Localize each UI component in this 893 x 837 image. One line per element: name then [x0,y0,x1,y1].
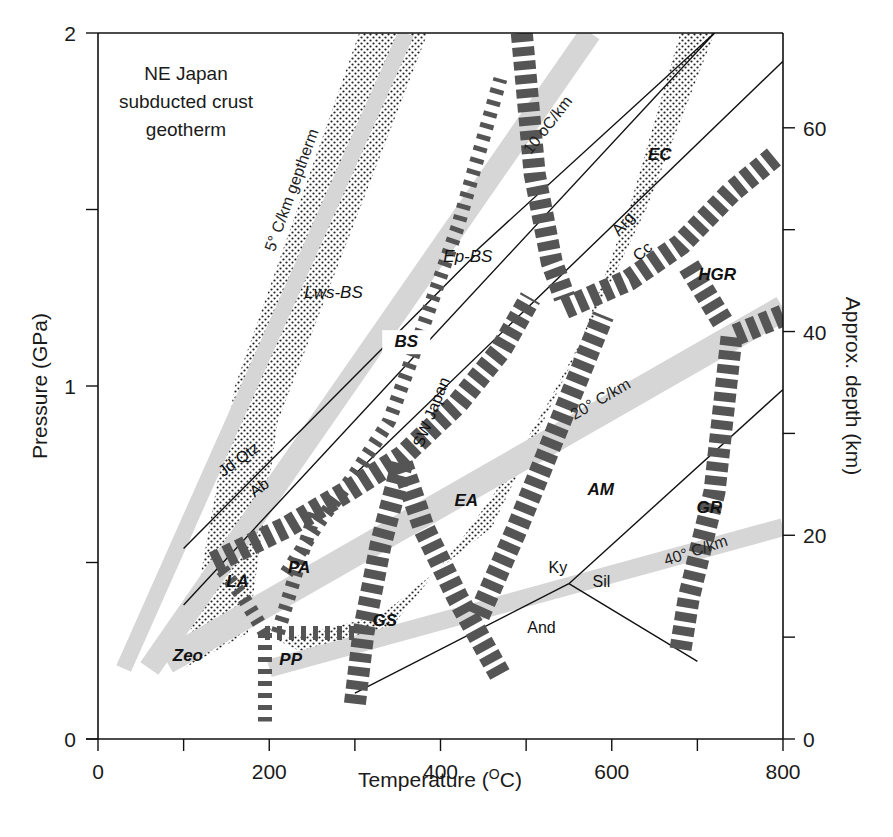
facies-label: Ep-BS [443,247,493,266]
x-tick-label: 600 [594,760,629,783]
y-tick-label: 2 [64,22,76,45]
y-axis-title: Pressure (GPa) [28,313,51,459]
facies-label: PA [288,558,310,577]
y2-tick-label: 40 [803,321,826,344]
facies-label: Lws-BS [304,283,363,302]
sw-japan-label: SW Japan [409,375,452,450]
facies-label: HGR [698,265,737,284]
ne-japan-note: NE Japan [144,63,227,84]
mineral-label: Ky [548,559,567,576]
x-tick-label: 0 [92,760,104,783]
facies-boundary [355,464,402,704]
facies-label: EC [648,145,672,164]
x-axis-title: Temperature (OC) [358,766,522,791]
facies-label: EA [454,491,478,510]
pt-facies-chart: ZeoPPLAPAGSEAAMGRHGRECBSEp-BSLws-BSJd Qt… [0,0,893,837]
y2-tick-label: 60 [803,117,826,140]
mineral-label: Sil [593,573,611,590]
ne-japan-note: subducted crust [119,91,254,112]
y2-axis-title: Approx. depth (km) [842,297,865,476]
facies-label: GS [373,611,398,630]
y-tick-label: 1 [64,375,76,398]
facies-boundary [565,157,775,309]
y2-tick-label: 20 [803,524,826,547]
reaction-boundary-line [569,584,698,662]
x-tick-label: 200 [252,760,287,783]
facies-label: AM [586,480,614,499]
facies-label: PP [279,650,302,669]
facies-label: LA [226,572,249,591]
mineral-label: And [527,619,555,636]
facies-boundaries [214,33,783,721]
x-tick-label: 800 [765,760,800,783]
facies-label: BS [394,332,418,351]
facies-label: GR [697,498,723,517]
ne-japan-note: geotherm [146,119,226,140]
y-tick-label: 0 [64,728,76,751]
facies-label: Zeo [172,646,203,665]
y2-tick-label: 0 [803,728,815,751]
